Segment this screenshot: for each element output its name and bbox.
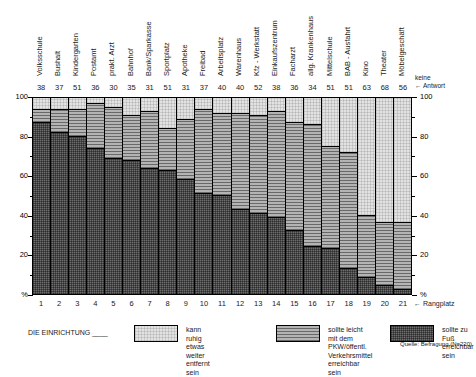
category-label: Kindergarten xyxy=(72,33,80,76)
bar-segment-foot xyxy=(358,278,375,294)
table-row[interactable] xyxy=(141,98,159,294)
bar-segment-car xyxy=(286,123,303,231)
legend-prefix-label: DIE EINRICHTUNG ____ xyxy=(28,328,108,337)
table-row[interactable] xyxy=(340,98,358,294)
category-label-cell: Arbeitsplatz xyxy=(213,2,231,76)
bar-segment-foot xyxy=(376,286,393,294)
bar-segment-car xyxy=(394,223,411,290)
bar-segment-far xyxy=(105,98,122,108)
bar-segment-car xyxy=(69,110,86,137)
table-row[interactable] xyxy=(195,98,213,294)
bar-segment-foot xyxy=(87,149,104,294)
category-label: BAB - Ausfahrt xyxy=(344,27,352,76)
category-label: Apotheke xyxy=(181,44,189,76)
no-answer-value: 68 xyxy=(376,82,394,93)
table-row[interactable] xyxy=(87,98,105,294)
bars-container xyxy=(33,98,411,294)
rank-value: 18 xyxy=(340,298,358,309)
table-row[interactable] xyxy=(394,98,411,294)
table-row[interactable] xyxy=(51,98,69,294)
bar-segment-car xyxy=(51,110,68,134)
category-labels-row: VolksschuleBushaltKindergartenPostamtpra… xyxy=(32,2,412,76)
bar-segment-far xyxy=(340,98,357,153)
no-answer-value: 51 xyxy=(322,82,340,93)
bar-segment-car xyxy=(195,110,212,194)
no-answer-value: 56 xyxy=(394,82,412,93)
table-row[interactable] xyxy=(286,98,304,294)
category-label: Sportplatz xyxy=(163,42,171,76)
category-label-cell: Möbelgeschäft xyxy=(394,2,412,76)
category-label-cell: Kindergarten xyxy=(68,2,86,76)
category-label-cell: prakt. Arzt xyxy=(104,2,122,76)
category-label-cell: Kfz - Werkstatt xyxy=(249,2,267,76)
table-row[interactable] xyxy=(213,98,231,294)
table-row[interactable] xyxy=(69,98,87,294)
rank-value: 6 xyxy=(122,298,140,309)
category-label: Arbeitsplatz xyxy=(217,37,225,76)
table-row[interactable] xyxy=(268,98,286,294)
axis-tick xyxy=(412,275,415,276)
no-answer-value: 31 xyxy=(141,82,159,93)
rank-value: 11 xyxy=(213,298,231,309)
category-label-cell: Apotheke xyxy=(177,2,195,76)
category-label-cell: Volksschule xyxy=(32,2,50,76)
bar-segment-car xyxy=(340,153,357,269)
rank-value: 14 xyxy=(267,298,285,309)
bar-segment-far xyxy=(376,98,393,223)
bar-segment-car xyxy=(177,120,194,181)
table-row[interactable] xyxy=(232,98,250,294)
legend-swatch-far xyxy=(134,325,178,342)
bar-segment-car xyxy=(304,125,321,247)
bar-segment-far xyxy=(123,98,140,116)
bar-segment-foot xyxy=(141,169,158,294)
category-label: prakt. Arzt xyxy=(108,42,116,76)
rank-value: 13 xyxy=(249,298,267,309)
bar-segment-far xyxy=(268,98,285,112)
rank-value: 7 xyxy=(141,298,159,309)
bar-segment-foot xyxy=(268,218,285,294)
bar-segment-far xyxy=(177,98,194,120)
table-row[interactable] xyxy=(358,98,376,294)
table-row[interactable] xyxy=(123,98,141,294)
category-label: Bahnhof xyxy=(127,48,135,76)
bar-segment-foot xyxy=(394,290,411,294)
no-answer-value: 63 xyxy=(358,82,376,93)
no-answer-label-line1: keine xyxy=(415,74,475,82)
bar-segment-car xyxy=(87,104,104,149)
bar-segment-car xyxy=(105,108,122,159)
bar-segment-car xyxy=(123,116,140,161)
no-answer-value: 40 xyxy=(231,82,249,93)
bar-segment-far xyxy=(286,98,303,123)
table-row[interactable] xyxy=(177,98,195,294)
axis-tick-label: 20 xyxy=(420,251,428,259)
table-row[interactable] xyxy=(322,98,340,294)
rank-value: 4 xyxy=(86,298,104,309)
category-label: Einkaufszentrum xyxy=(271,20,279,76)
category-label: allg. Krankenhaus xyxy=(307,16,315,76)
table-row[interactable] xyxy=(105,98,123,294)
no-answer-value: 38 xyxy=(32,82,50,93)
category-label: Facharzt xyxy=(289,47,297,76)
category-label: Möbelgeschäft xyxy=(398,27,406,76)
no-answer-value: 51 xyxy=(340,82,358,93)
axis-tick xyxy=(412,176,417,177)
rank-value: 5 xyxy=(104,298,122,309)
category-label-cell: Bushalt xyxy=(50,2,68,76)
bar-segment-car xyxy=(376,223,393,286)
table-row[interactable] xyxy=(376,98,394,294)
table-row[interactable] xyxy=(159,98,177,294)
no-answer-value: 35 xyxy=(122,82,140,93)
axis-tick xyxy=(412,196,415,197)
bar-segment-foot xyxy=(340,269,357,294)
axis-tick xyxy=(412,255,417,256)
y-axis-left-labels: %20406080100 xyxy=(2,97,28,295)
table-row[interactable] xyxy=(250,98,268,294)
table-row[interactable] xyxy=(304,98,322,294)
legend-label: sollte leicht mit dem PKW/öffentl. Verke… xyxy=(328,326,372,377)
bar-segment-far xyxy=(394,98,411,223)
table-row[interactable] xyxy=(33,98,51,294)
axis-tick xyxy=(412,97,417,98)
bar-segment-far xyxy=(322,98,339,147)
axis-tick-label: 100 xyxy=(420,93,433,101)
